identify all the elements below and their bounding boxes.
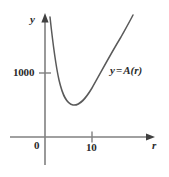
curve-annotation: y=A(r) — [110, 65, 142, 76]
y-axis-arrowhead — [41, 13, 48, 23]
y-axis-label: y — [30, 14, 35, 25]
x-tick-label-10: 10 — [86, 142, 97, 153]
x-axis-label: r — [152, 140, 156, 151]
plot-canvas — [0, 0, 169, 177]
y-tick-label-1000: 1000 — [13, 67, 34, 78]
curve-A-of-r — [50, 15, 133, 105]
origin-label: 0 — [34, 140, 40, 151]
curve-annotation-operator: = — [115, 64, 123, 76]
curve-annotation-rhs: A(r) — [123, 64, 142, 76]
graph-figure: y r 1000 0 10 y=A(r) — [0, 0, 169, 177]
